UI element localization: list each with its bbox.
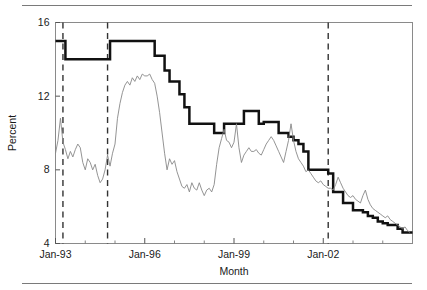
y-axis-tick-label: 12 — [38, 90, 50, 102]
x-axis-tick-label: Jan-02 — [307, 248, 339, 260]
x-axis-title: Month — [219, 265, 248, 277]
x-axis-tick-label: Jan-99 — [218, 248, 250, 260]
chart-figure: 481216PercentJan-93Jan-96Jan-99Jan-02Mon… — [0, 0, 427, 290]
y-axis-title: Percent — [6, 115, 18, 151]
y-axis-tick-label: 8 — [44, 163, 50, 175]
x-axis-tick-label: Jan-93 — [39, 248, 71, 260]
y-axis-tick-label: 16 — [38, 16, 50, 28]
x-axis-tick-label: Jan-96 — [129, 248, 161, 260]
